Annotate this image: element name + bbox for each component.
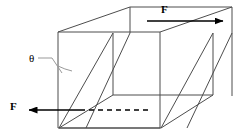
edge-shear-front-left [59,33,113,128]
block-connector-edges [113,33,213,95]
edge-shear-interior-left [86,33,130,128]
force-label-bottom: F [10,101,17,112]
edge-shear-front-right [161,33,213,128]
edge-shear-back-right [187,33,232,128]
edge-top-left-depth [58,7,130,32]
force-label-top: F [161,4,168,15]
block-front-face [58,32,160,128]
edge-bottom-right-depth [161,95,213,128]
shear-angle-label: θ [29,53,34,64]
edge-top-right-depth [160,7,232,32]
shear-diagram-canvas [0,0,241,140]
shear-diagram-figure: F F θ [0,0,241,140]
block-top-face [58,7,232,32]
block-bottom-face [59,95,213,128]
edge-bottom-left-depth [59,95,113,128]
block-shear-edges [59,33,232,128]
